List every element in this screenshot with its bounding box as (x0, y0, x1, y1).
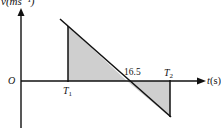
shaded-region-negative (127, 81, 170, 117)
y-axis-label: v(ms⁻¹) (1, 0, 35, 7)
x-axis-label: t(s) (207, 76, 221, 87)
t2-label-sub: 2 (170, 72, 174, 80)
x-axis-label-unit: (s) (210, 75, 221, 86)
velocity-time-graph (0, 0, 221, 130)
x-axis-arrow-icon (197, 78, 206, 85)
t2-label: T2 (164, 68, 173, 80)
t1-label: T1 (63, 86, 72, 98)
origin-label: O (8, 76, 15, 86)
y-axis-arrow-icon (18, 8, 25, 16)
t1-label-sub: 1 (69, 90, 73, 98)
crossing-label: 16.5 (124, 68, 141, 78)
